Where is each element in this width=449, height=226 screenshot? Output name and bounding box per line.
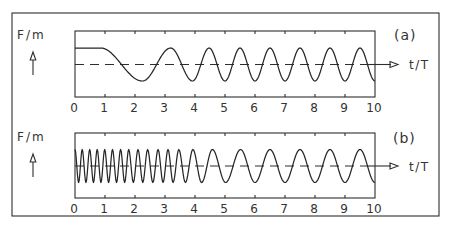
up-arrow-icon (30, 154, 36, 177)
x-tick-label: 3 (160, 101, 168, 115)
x-tick-label: 5 (220, 101, 228, 115)
x-tick-label: 6 (250, 101, 258, 115)
panel-a: F/m (a) t/T 012345678910 (17, 27, 430, 115)
panel-tag: (b) (393, 130, 416, 146)
x-tick-label: 1 (100, 202, 108, 216)
x-tick-label: 9 (340, 101, 348, 115)
x-tick-label: 4 (190, 101, 198, 115)
x-tick-label: 8 (310, 101, 318, 115)
panel-b: F/m (b) t/T 012345678910 (17, 130, 430, 216)
right-arrow-icon (367, 163, 398, 169)
x-axis-label: t/T (409, 58, 430, 72)
x-tick-label: 2 (130, 101, 138, 115)
x-tick-label: 8 (310, 202, 318, 216)
y-axis-label: F/m (17, 28, 46, 42)
x-tick-label: 1 (100, 101, 108, 115)
figure: F/m (a) t/T 012345678910 F/m (b) t/T 012… (0, 0, 449, 226)
x-tick-label: 0 (70, 101, 78, 115)
x-tick-label: 10 (366, 202, 381, 216)
x-tick-label: 0 (70, 202, 78, 216)
x-tick-label: 7 (280, 202, 288, 216)
x-tick-label: 3 (160, 202, 168, 216)
x-tick-label: 2 (130, 202, 138, 216)
right-arrow-icon (367, 62, 398, 68)
x-tick-label: 4 (190, 202, 198, 216)
panel-tag: (a) (394, 27, 417, 43)
x-tick-label: 9 (340, 202, 348, 216)
x-tick-label: 7 (280, 101, 288, 115)
x-tick-label: 10 (366, 101, 381, 115)
x-axis-label: t/T (409, 160, 430, 174)
x-tick-label: 6 (250, 202, 258, 216)
up-arrow-icon (30, 52, 36, 75)
x-tick-label: 5 (220, 202, 228, 216)
y-axis-label: F/m (17, 130, 46, 144)
